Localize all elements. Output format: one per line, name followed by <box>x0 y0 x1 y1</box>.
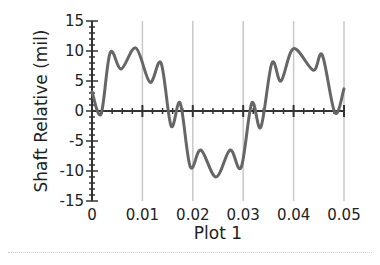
series-layer <box>92 48 344 177</box>
y-tick-label: -10 <box>60 162 85 180</box>
x-axis-title: Plot 1 <box>194 223 242 243</box>
y-tick-label: -5 <box>69 132 84 150</box>
y-axis-title: Shaft Relative (mil) <box>31 30 51 193</box>
x-tick-label: 0.04 <box>277 206 310 224</box>
y-tick-label: 15 <box>65 12 84 30</box>
x-tick-label: 0.05 <box>327 206 360 224</box>
y-tick-label: 10 <box>65 42 84 60</box>
y-tick-label: 0 <box>74 102 84 120</box>
divider <box>8 252 372 253</box>
tick-labels: 151050-5-10-1500.010.020.030.040.05 <box>60 12 361 224</box>
x-tick-label: 0 <box>87 206 97 224</box>
y-tick-label: 5 <box>74 72 84 90</box>
x-tick-label: 0.03 <box>226 206 259 224</box>
y-tick-label: -15 <box>60 192 85 210</box>
x-tick-label: 0.01 <box>126 206 159 224</box>
x-tick-label: 0.02 <box>176 206 209 224</box>
series-line <box>92 48 344 177</box>
chart: 151050-5-10-1500.010.020.030.040.05 Plot… <box>0 0 380 265</box>
axes <box>86 21 344 201</box>
